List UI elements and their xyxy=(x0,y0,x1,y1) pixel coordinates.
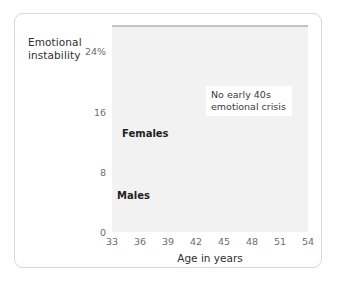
y-tick-label: 0 xyxy=(0,227,106,238)
x-tick-label: 36 xyxy=(134,236,146,247)
annotation-line2: emotional crisis xyxy=(211,101,286,113)
y-tick-label: 16 xyxy=(0,106,106,117)
annotation-line1: No early 40s xyxy=(211,89,286,101)
x-tick-label: 54 xyxy=(302,236,314,247)
x-axis-title: Age in years xyxy=(112,252,308,264)
x-tick-label: 42 xyxy=(190,236,202,247)
series-label-males: Males xyxy=(117,190,150,201)
y-tick-label: 24% xyxy=(0,46,106,57)
x-tick-label: 51 xyxy=(274,236,286,247)
x-tick-label: 48 xyxy=(246,236,258,247)
annotation-no-crisis: No early 40s emotional crisis xyxy=(206,86,292,116)
x-tick-label: 33 xyxy=(106,236,118,247)
y-tick-label: 8 xyxy=(0,166,106,177)
chart-screenshot: Emotional instability 24%1680 3336394245… xyxy=(0,0,339,284)
x-tick-label: 45 xyxy=(218,236,230,247)
x-tick-label: 39 xyxy=(162,236,174,247)
series-label-females: Females xyxy=(122,128,169,139)
